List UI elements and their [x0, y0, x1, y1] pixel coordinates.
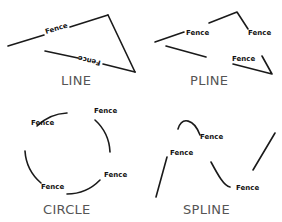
circle-arc-3	[25, 151, 41, 183]
caption-line: LINE	[61, 73, 91, 88]
fence-label-circle-4: Fence	[41, 183, 64, 191]
fence-label-pline-3: Fence	[232, 55, 255, 63]
pline-segment-1	[155, 32, 184, 42]
panel-pline: Fence Fence Fence PLINE	[155, 12, 272, 88]
spline-curve-3	[211, 162, 230, 187]
fence-label-pline-1: Fence	[186, 29, 209, 37]
panel-circle: Fence Fence Fence Fence CIRCLE	[25, 107, 127, 217]
spline-curve-4	[253, 133, 275, 170]
line-segment-2	[108, 15, 135, 72]
fence-label-circle-3: Fence	[104, 171, 127, 179]
pline-segment-3	[166, 46, 206, 57]
fence-label-line-1: Fence	[44, 21, 69, 35]
fence-label-line-2: Fence	[77, 54, 102, 67]
fence-label-circle-1: Fence	[31, 119, 54, 127]
caption-spline: SPLINE	[183, 202, 230, 217]
fence-label-spline-1: Fence	[200, 133, 223, 141]
diagram-canvas: Fence Fence LINE Fence Fence Fence PLINE…	[0, 0, 282, 222]
spline-curve-1	[178, 121, 200, 135]
fence-label-spline-2: Fence	[170, 149, 193, 157]
pline-segment-2	[209, 12, 248, 29]
panel-spline: Fence Fence Fence SPLINE	[156, 121, 275, 217]
panel-line: Fence Fence LINE	[8, 15, 135, 88]
circle-arc-2	[95, 120, 110, 152]
fence-label-pline-2: Fence	[248, 29, 271, 37]
linetype-diagram: Fence Fence LINE Fence Fence Fence PLINE…	[0, 0, 282, 222]
caption-circle: CIRCLE	[43, 202, 91, 217]
fence-label-circle-2: Fence	[94, 107, 117, 115]
fence-label-spline-3: Fence	[236, 184, 259, 192]
spline-curve-2	[156, 157, 167, 197]
circle-arc-4	[67, 180, 100, 194]
caption-pline: PLINE	[190, 73, 228, 88]
